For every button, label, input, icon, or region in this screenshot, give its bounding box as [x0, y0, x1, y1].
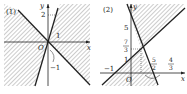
origin-label: O: [126, 76, 132, 84]
annot-neg1: −1: [50, 64, 60, 72]
tick-5: 5: [124, 24, 128, 32]
x-axis-label: x: [87, 44, 91, 52]
y-axis-label: y: [39, 2, 45, 10]
tick-4-3-num: 4: [169, 56, 173, 63]
tick-5-2-num: 5: [152, 56, 156, 63]
tick-7-3-num: 7: [124, 38, 128, 45]
tick-neg1: −1: [104, 65, 114, 73]
shaded-region-right: [48, 4, 90, 86]
origin-label: O: [38, 44, 44, 52]
y-arrow-icon: [47, 4, 50, 8]
tick-2: 2: [41, 11, 45, 19]
panel-label: (1): [6, 8, 16, 16]
diagram: (1) y x 2 1 O −1 (2) y x 5 7 3 1 −1 O 5 …: [0, 0, 187, 94]
x-axis-label: x: [181, 75, 185, 83]
tick-5-2-den: 2: [152, 64, 156, 71]
tick-7-3-den: 3: [124, 46, 128, 53]
tick-1: 1: [124, 56, 128, 64]
panel-label: (2): [103, 6, 113, 14]
tick-1: 1: [56, 32, 60, 40]
tick-4-3-den: 3: [169, 64, 173, 71]
